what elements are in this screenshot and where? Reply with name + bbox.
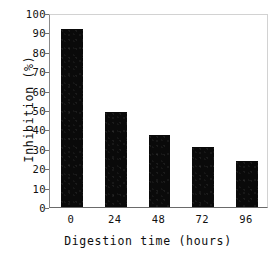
y-axis-tick-mark xyxy=(44,130,49,131)
x-axis-title: Digestion time (hours) xyxy=(28,233,268,249)
y-axis-tick-mark xyxy=(44,189,49,190)
bar-slot xyxy=(225,15,269,207)
y-axis-tick-label: 60 xyxy=(18,86,46,98)
y-axis-tick-label: 30 xyxy=(18,144,46,156)
y-axis-tick-label: 0 xyxy=(18,202,46,214)
y-axis-tick-label: 50 xyxy=(18,105,46,117)
bar-chart-figure: Inhibition (%) 0102030405060708090100 02… xyxy=(0,0,274,258)
bar-slot xyxy=(138,15,182,207)
y-axis-tick-mark xyxy=(44,33,49,34)
y-axis-tick-mark xyxy=(44,150,49,151)
x-axis-tick-label: 48 xyxy=(137,212,181,226)
y-axis-tick-mark xyxy=(44,169,49,170)
y-axis-tick-mark xyxy=(44,14,49,15)
bar-slot xyxy=(181,15,225,207)
y-axis-tick-mark xyxy=(44,111,49,112)
y-axis-tick-label: 40 xyxy=(18,124,46,136)
bar-series xyxy=(50,15,267,207)
x-axis-tick-label: 96 xyxy=(224,212,268,226)
x-axis-tick-label: 24 xyxy=(93,212,137,226)
bar[interactable] xyxy=(192,147,214,207)
y-axis-tick-label: 70 xyxy=(18,66,46,78)
y-axis-tick-label: 20 xyxy=(18,163,46,175)
bar[interactable] xyxy=(61,29,83,207)
x-axis-tick-labels: 024487296 xyxy=(49,212,268,226)
y-axis-tick-label: 100 xyxy=(18,8,46,20)
y-axis-tick-label: 10 xyxy=(18,183,46,195)
plot-area xyxy=(49,14,268,208)
y-axis-tick-label: 90 xyxy=(18,27,46,39)
y-axis-tick-mark xyxy=(44,208,49,209)
x-axis-tick-label: 72 xyxy=(180,212,224,226)
y-axis-tick-mark xyxy=(44,92,49,93)
bar-slot xyxy=(50,15,94,207)
bar[interactable] xyxy=(236,161,258,207)
bar[interactable] xyxy=(149,135,171,207)
y-axis-tick-mark xyxy=(44,53,49,54)
y-axis-tick-mark xyxy=(44,72,49,73)
x-axis-tick-label: 0 xyxy=(49,212,93,226)
bar-slot xyxy=(94,15,138,207)
y-axis-tick-labels: 0102030405060708090100 xyxy=(18,14,46,208)
bar[interactable] xyxy=(105,112,127,207)
y-axis-tick-label: 80 xyxy=(18,47,46,59)
